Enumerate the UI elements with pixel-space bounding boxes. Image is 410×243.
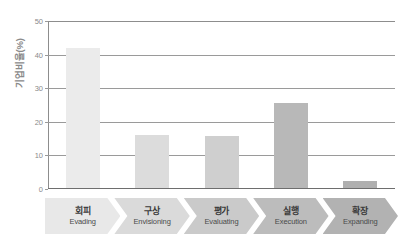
y-tick-label-10: 10 <box>35 151 43 160</box>
x-axis-baseline <box>48 188 395 189</box>
chevron-label-kr: 평가 <box>214 206 230 217</box>
chevron-label-en: Evading <box>69 217 95 227</box>
chevron-label-en: Expanding <box>343 217 378 227</box>
chevron-label-kr: 확장 <box>352 206 368 217</box>
chevron-label-kr: 구상 <box>144 206 160 217</box>
y-tick-label-40: 40 <box>35 50 43 59</box>
chevron-execution: 실행Execution <box>253 198 328 234</box>
bar-chart-figure: 기업비율(%) 01020304050 회피Evading구상Envisioni… <box>0 0 410 243</box>
y-tick-mark-0 <box>45 189 48 190</box>
y-tick-label-50: 50 <box>35 17 43 26</box>
chevron-label-kr: 회피 <box>75 206 91 217</box>
bar-evaluating <box>205 136 239 189</box>
chevron-label-en: Evaluating <box>204 217 238 227</box>
chevron-expanding: 확장Expanding <box>323 198 398 234</box>
bar-evading <box>66 48 100 189</box>
chevron-evading: 회피Evading <box>45 198 120 234</box>
y-tick-label-30: 30 <box>35 84 43 93</box>
y-tick-label-0: 0 <box>39 185 43 194</box>
chevron-envisioning: 구상Envisioning <box>114 198 189 234</box>
chevron-label-kr: 실행 <box>283 206 299 217</box>
chevron-label-en: Envisioning <box>133 217 170 227</box>
bar-execution <box>274 103 308 189</box>
y-axis-title: 기업비율(%) <box>12 3 28 123</box>
bar-envisioning <box>135 135 169 189</box>
y-tick-label-20: 20 <box>35 117 43 126</box>
bars-layer <box>48 21 395 189</box>
category-chevron-band: 회피Evading구상Envisioning평가Evaluating실행Exec… <box>48 198 395 234</box>
plot-area: 01020304050 <box>48 21 395 189</box>
chevron-evaluating: 평가Evaluating <box>184 198 259 234</box>
chevron-label-en: Execution <box>275 217 307 227</box>
